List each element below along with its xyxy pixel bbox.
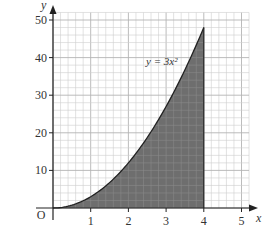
x-tick-label: 4	[201, 214, 207, 228]
y-tick-label: 30	[35, 88, 47, 102]
x-tick-label: 2	[125, 214, 131, 228]
y-tick-label: 20	[35, 126, 47, 140]
y-tick-label: 40	[35, 51, 47, 65]
y-tick-label: 10	[35, 163, 47, 177]
chart: 123451020304050 y = 3x² x y O	[0, 0, 263, 236]
curve-label: y = 3x²	[145, 55, 178, 67]
y-tick-label: 50	[35, 13, 47, 27]
x-tick-label: 3	[163, 214, 169, 228]
x-axis-label: x	[255, 211, 262, 225]
y-axis-label: y	[40, 0, 47, 12]
origin-label: O	[37, 208, 46, 222]
x-tick-label: 1	[88, 214, 94, 228]
x-tick-label: 5	[239, 214, 245, 228]
